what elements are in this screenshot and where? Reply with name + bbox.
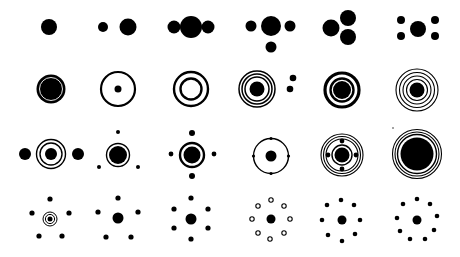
dot-shape bbox=[392, 127, 393, 128]
dot-shape bbox=[180, 16, 202, 38]
dot-shape bbox=[47, 196, 52, 201]
double-ring-icon bbox=[174, 72, 208, 106]
dot-shape bbox=[338, 216, 347, 225]
ring-shape bbox=[174, 72, 208, 106]
symbol-grid: Circle and dot symbol set bbox=[0, 0, 460, 257]
dot-shape bbox=[340, 10, 356, 26]
dot-shape bbox=[397, 32, 405, 40]
dot-shape bbox=[326, 233, 331, 238]
single-dot-icon bbox=[41, 19, 57, 35]
dot-shape bbox=[428, 202, 433, 207]
target-with-satellites-icon bbox=[239, 71, 296, 107]
atom-orbits-icon bbox=[321, 134, 363, 176]
dot-shape bbox=[395, 216, 400, 221]
dot-shape bbox=[323, 20, 340, 37]
dot-shape bbox=[353, 232, 358, 237]
hollow-dot-shape bbox=[268, 237, 272, 241]
dot-eight-hollow-satellites-icon bbox=[250, 198, 292, 241]
bold-target-icon bbox=[325, 73, 359, 107]
dot-shape bbox=[320, 218, 325, 223]
dot-shape bbox=[250, 82, 265, 97]
dot-shape bbox=[358, 218, 363, 223]
dot-shape bbox=[188, 236, 193, 241]
dot-shape bbox=[423, 237, 428, 242]
dot-nine-satellites-icon bbox=[395, 197, 440, 242]
ring-shape bbox=[181, 79, 202, 100]
dot-shape bbox=[171, 225, 176, 230]
dot-shape bbox=[340, 167, 345, 172]
ringed-dot-between-dots-icon bbox=[19, 140, 84, 169]
dot-shape bbox=[252, 154, 255, 157]
filled-disc-ring-icon bbox=[37, 75, 66, 104]
dot-eight-satellites-icon bbox=[320, 198, 363, 244]
dot-shape bbox=[269, 137, 272, 140]
dot-shape bbox=[340, 139, 345, 144]
dot-shape bbox=[128, 234, 133, 239]
dot-shape bbox=[352, 203, 357, 208]
dot-shape bbox=[171, 206, 176, 211]
dot-shape bbox=[189, 173, 195, 179]
dot-shape bbox=[19, 148, 31, 160]
dot-shape bbox=[116, 130, 120, 134]
dot-shape bbox=[413, 216, 422, 225]
ringed-dot-four-satellites-icon bbox=[169, 130, 217, 179]
dot-shape bbox=[435, 214, 440, 219]
dot-shape bbox=[97, 165, 101, 169]
dot-shape bbox=[113, 213, 124, 224]
dot-shape bbox=[95, 209, 100, 214]
dot-shape bbox=[186, 214, 197, 225]
dot-shape bbox=[410, 83, 425, 98]
dot-shape bbox=[135, 209, 140, 214]
dot-shape bbox=[266, 42, 277, 53]
dot-shape bbox=[205, 225, 210, 230]
large-disc-rings-icon bbox=[392, 127, 441, 178]
dot-shape bbox=[326, 153, 331, 158]
dot-shape bbox=[287, 154, 290, 157]
dot-shape bbox=[325, 203, 330, 208]
dot-five-satellites-icon bbox=[95, 195, 140, 239]
dot-shape bbox=[202, 21, 215, 34]
ringed-dot-three-satellites-icon bbox=[97, 130, 140, 169]
dot-shape bbox=[103, 234, 108, 239]
dot-shape bbox=[72, 148, 84, 160]
dot-shape bbox=[115, 195, 120, 200]
dot-with-four-corners-icon bbox=[397, 16, 439, 40]
dot-shape bbox=[340, 239, 345, 244]
dot-shape bbox=[354, 153, 359, 158]
multi-ring-target-icon bbox=[396, 69, 438, 111]
dot-shape bbox=[29, 210, 34, 215]
dot-shape bbox=[261, 16, 281, 36]
dot-shape bbox=[432, 228, 437, 233]
dot-shape bbox=[168, 21, 181, 34]
dot-shape bbox=[45, 148, 57, 160]
dot-shape bbox=[59, 233, 64, 238]
orbit-with-nodes-icon bbox=[252, 137, 290, 175]
dot-shape bbox=[37, 75, 66, 104]
dot-shape bbox=[48, 217, 53, 222]
dot-shape bbox=[431, 32, 439, 40]
dot-shape bbox=[408, 237, 413, 242]
dot-shape bbox=[266, 151, 277, 162]
dot-shape bbox=[212, 152, 217, 157]
dot-shape bbox=[169, 152, 174, 157]
dot-shape bbox=[136, 165, 140, 169]
dot-shape bbox=[431, 16, 439, 24]
symbol-canvas bbox=[0, 0, 460, 257]
hollow-dot-shape bbox=[256, 231, 260, 235]
dot-shape bbox=[333, 81, 351, 99]
dot-shape bbox=[115, 86, 122, 93]
four-dots-t-icon bbox=[246, 16, 296, 53]
dot-shape bbox=[339, 198, 344, 203]
three-dots-row-icon bbox=[168, 16, 215, 38]
dot-shape bbox=[401, 202, 406, 207]
dot-shape bbox=[397, 16, 405, 24]
dot-shape bbox=[41, 19, 57, 35]
dot-shape bbox=[246, 21, 257, 32]
hollow-dot-shape bbox=[282, 231, 286, 235]
dot-shape bbox=[415, 197, 420, 202]
dot-shape bbox=[335, 148, 350, 163]
circle-with-dot-icon bbox=[101, 72, 135, 106]
dot-shape bbox=[109, 146, 127, 164]
dot-shape bbox=[184, 147, 201, 164]
dot-shape bbox=[401, 138, 434, 171]
